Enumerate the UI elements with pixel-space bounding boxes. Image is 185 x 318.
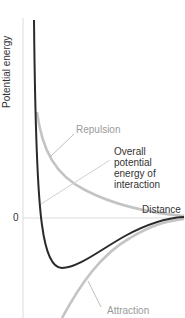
overall-label-line3: energy of — [114, 168, 156, 179]
repulsion-leader — [50, 134, 74, 157]
attraction-label: Attraction — [107, 305, 149, 316]
overall-label-line4: interaction — [114, 179, 160, 190]
attraction-leader — [88, 281, 101, 307]
y-axis-label: Potential energy — [1, 36, 12, 108]
attraction-curve — [62, 219, 184, 318]
zero-tick-label: 0 — [13, 212, 19, 223]
overall-label-line2: potential — [114, 157, 152, 168]
x-axis-label: Distance — [142, 204, 181, 215]
energy-diagram — [0, 0, 185, 318]
overall-curve — [34, 20, 184, 268]
overall-label-line1: Overall — [114, 146, 146, 157]
repulsion-label: Repulsion — [76, 124, 120, 135]
